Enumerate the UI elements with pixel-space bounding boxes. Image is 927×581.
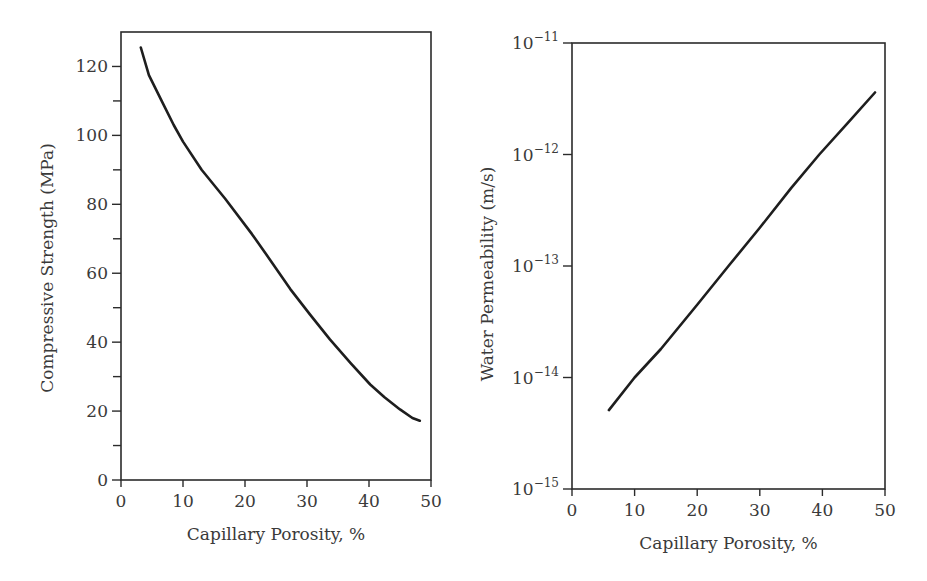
x-tick-label: 40 xyxy=(812,500,834,520)
y-tick-label: 10−15 xyxy=(512,476,559,499)
x-tick-label: 10 xyxy=(172,491,194,511)
y-tick-label: 10−11 xyxy=(512,30,559,53)
y-tick-label: 0 xyxy=(97,470,108,490)
y-tick-label: 10−13 xyxy=(512,253,559,276)
y-axis-ticks: 10−1510−1410−1310−1210−11 xyxy=(512,30,572,499)
y-tick-label: 10−14 xyxy=(512,365,559,388)
x-tick-label: 20 xyxy=(686,500,708,520)
x-tick-label: 50 xyxy=(420,491,442,511)
x-tick-label: 10 xyxy=(624,500,646,520)
y-tick-label: 10−12 xyxy=(512,142,559,165)
x-axis-ticks: 01020304050 xyxy=(116,480,442,511)
x-tick-label: 30 xyxy=(296,491,318,511)
x-tick-label: 0 xyxy=(567,500,578,520)
y-tick-label: 100 xyxy=(76,125,108,145)
plot-area-border xyxy=(121,32,431,480)
y-axis-title: Compressive Strength (MPa) xyxy=(37,143,57,393)
y-axis-ticks: 020406080100120 xyxy=(76,56,121,490)
compressive-strength-chart: 01020304050 020406080100120 Capillary Po… xyxy=(37,32,442,544)
figure: 01020304050 020406080100120 Capillary Po… xyxy=(0,0,927,581)
y-axis-title: Water Permeability (m/s) xyxy=(477,167,497,382)
x-tick-label: 40 xyxy=(358,491,380,511)
y-tick-label: 40 xyxy=(86,332,108,352)
x-axis-title: Capillary Porosity, % xyxy=(639,533,817,553)
water-permeability-chart: 01020304050 10−1510−1410−1310−1210−11 Ca… xyxy=(477,30,896,553)
plot-frame xyxy=(121,32,431,480)
y-tick-label: 20 xyxy=(86,401,108,421)
x-tick-label: 0 xyxy=(116,491,127,511)
x-tick-label: 50 xyxy=(874,500,896,520)
x-tick-label: 30 xyxy=(749,500,771,520)
data-line xyxy=(609,93,875,411)
y-tick-label: 80 xyxy=(86,194,108,214)
y-tick-label: 60 xyxy=(86,263,108,283)
x-axis-title: Capillary Porosity, % xyxy=(187,524,365,544)
chart-canvas: 01020304050 020406080100120 Capillary Po… xyxy=(0,0,927,581)
data-series xyxy=(141,48,420,421)
data-series xyxy=(609,93,875,411)
y-tick-label: 120 xyxy=(76,56,108,76)
data-line xyxy=(141,48,420,421)
x-axis-ticks: 01020304050 xyxy=(567,489,896,520)
x-tick-label: 20 xyxy=(234,491,256,511)
